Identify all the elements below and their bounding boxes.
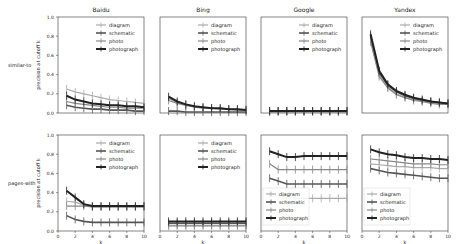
- legend: diagramschematicphotophotograph: [263, 188, 309, 225]
- y-tick-label: 0.2: [47, 91, 54, 96]
- x-tick-label: 2: [176, 234, 179, 239]
- y-tick-label: 1.0: [47, 15, 54, 20]
- legend-label-photograph: photograph: [413, 46, 442, 53]
- x-tick-label: 8: [328, 234, 331, 239]
- legend-label-diagram: diagram: [380, 191, 401, 198]
- legend-label-diagram: diagram: [413, 22, 434, 29]
- panel-similar-to-google: diagramschematicphotophotograph: [261, 17, 347, 116]
- x-tick-label: 2: [378, 234, 381, 239]
- column-title-google: Google: [293, 6, 314, 14]
- legend-label-photograph: photograph: [312, 46, 341, 53]
- y-tick-label: 0.6: [47, 53, 54, 58]
- x-tick-label: 6: [311, 234, 314, 239]
- panel-pages-with-yandex: 0246810kdiagramschematicphotophotograph: [361, 135, 451, 244]
- legend-label-schematic: schematic: [109, 148, 135, 154]
- x-tick-label: 8: [429, 234, 432, 239]
- panel-similar-to-yandex: diagramschematicphotophotograph: [362, 17, 448, 113]
- x-axis-label: k: [303, 239, 306, 244]
- x-tick-label: 6: [210, 234, 213, 239]
- x-axis-label: k: [404, 239, 407, 244]
- panel-similar-to-bing: diagramschematicphotophotograph: [160, 17, 246, 116]
- column-title-bing: Bing: [196, 6, 210, 14]
- legend-label-photograph: photograph: [211, 46, 240, 53]
- panel-similar-to-baidu: 0.00.20.40.60.81.0precision at cutoff kd…: [35, 15, 144, 116]
- row-label-similar-to: similar-to: [8, 62, 31, 68]
- x-tick-label: 0: [260, 234, 263, 239]
- x-tick-label: 4: [91, 234, 94, 239]
- x-tick-label: 0: [159, 234, 162, 239]
- legend-label-diagram: diagram: [109, 140, 130, 147]
- legend-label-diagram: diagram: [312, 22, 333, 29]
- x-tick-label: 4: [395, 234, 398, 239]
- row-label-pages-with: pages-with: [8, 180, 36, 187]
- legend: diagramschematicphotophotograph: [364, 188, 410, 225]
- column-title-baidu: Baidu: [92, 6, 109, 13]
- legend-label-photograph: photograph: [211, 164, 240, 171]
- x-axis-label: k: [202, 239, 205, 244]
- x-tick-label: 8: [227, 234, 230, 239]
- x-tick-label: 0: [361, 234, 364, 239]
- chart-figure: similar-topages-withBaiduBingGoogleYande…: [0, 0, 457, 244]
- x-tick-label: 10: [445, 234, 451, 239]
- legend-label-photo: photo: [109, 38, 123, 45]
- x-axis-label: k: [100, 239, 103, 244]
- x-tick-label: 2: [277, 234, 280, 239]
- legend-label-photograph: photograph: [109, 46, 138, 53]
- y-axis-label: precision at cutoff k: [35, 158, 42, 208]
- legend-label-diagram: diagram: [109, 22, 130, 29]
- legend-label-schematic: schematic: [380, 199, 406, 205]
- y-tick-label: 1.0: [47, 133, 54, 138]
- x-tick-label: 0: [57, 234, 60, 239]
- legend-label-photo: photo: [211, 156, 225, 163]
- y-tick-label: 0.4: [47, 72, 54, 77]
- legend-label-schematic: schematic: [211, 30, 237, 36]
- legend-label-photograph: photograph: [109, 164, 138, 171]
- x-tick-label: 10: [141, 234, 147, 239]
- legend-label-schematic: schematic: [109, 30, 135, 36]
- legend-label-diagram: diagram: [211, 22, 232, 29]
- legend-label-diagram: diagram: [211, 140, 232, 147]
- legend-label-photo: photo: [312, 38, 326, 45]
- legend-label-photograph: photograph: [279, 215, 308, 222]
- column-title-yandex: Yandex: [393, 6, 416, 13]
- y-tick-label: 0.2: [47, 209, 54, 214]
- legend-label-photo: photo: [413, 38, 427, 45]
- x-tick-label: 6: [108, 234, 111, 239]
- y-tick-label: 0.4: [47, 190, 54, 195]
- legend-label-diagram: diagram: [279, 191, 300, 198]
- panel-pages-with-baidu: 0.00.20.40.60.81.0precision at cutoff k0…: [35, 133, 147, 244]
- panel-pages-with-bing: 0246810kdiagramschematicphotophotograph: [159, 135, 249, 244]
- legend-label-photo: photo: [211, 38, 225, 45]
- x-tick-label: 10: [243, 234, 249, 239]
- x-tick-label: 6: [412, 234, 415, 239]
- y-tick-label: 0.6: [47, 171, 54, 176]
- legend-label-schematic: schematic: [312, 30, 338, 36]
- y-tick-label: 0.8: [47, 152, 54, 157]
- x-tick-label: 10: [344, 234, 350, 239]
- y-tick-label: 0.8: [47, 34, 54, 39]
- x-tick-label: 8: [125, 234, 128, 239]
- x-tick-label: 2: [74, 234, 77, 239]
- legend-label-schematic: schematic: [211, 148, 237, 154]
- legend-label-photograph: photograph: [380, 215, 409, 222]
- y-tick-label: 0.0: [47, 111, 54, 116]
- legend-label-photo: photo: [279, 207, 293, 214]
- x-tick-label: 4: [294, 234, 297, 239]
- legend-label-photo: photo: [109, 156, 123, 163]
- legend-label-schematic: schematic: [413, 30, 439, 36]
- legend-label-photo: photo: [380, 207, 394, 214]
- x-tick-label: 4: [193, 234, 196, 239]
- y-axis-label: precision at cutoff k: [35, 40, 42, 90]
- panel-pages-with-google: 0246810kdiagramschematicphotophotograph: [260, 135, 350, 244]
- y-tick-label: 0.0: [47, 229, 54, 234]
- legend-label-schematic: schematic: [279, 199, 305, 205]
